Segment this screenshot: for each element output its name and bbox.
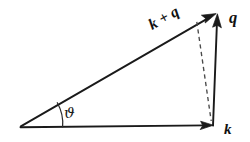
label-k: k: [224, 121, 232, 137]
vector-q: [213, 14, 222, 126]
label-q: q: [229, 8, 237, 27]
dashed-construction-line: [197, 22, 211, 121]
vector-k-plus-q: [21, 14, 216, 127]
vector-diagram-canvas: k + q q k ϑ: [0, 0, 250, 142]
vector-k-plus-q-shaft: [21, 17, 210, 126]
label-angle-theta: ϑ: [64, 104, 75, 122]
vector-q-shaft: [213, 22, 217, 126]
label-k-plus-q: k + q: [145, 2, 182, 33]
vector-triangle-figure: k + q q k ϑ: [0, 0, 250, 142]
angle-arc: [57, 103, 62, 127]
vector-k: [21, 121, 214, 129]
vector-k-shaft: [21, 125, 207, 127]
